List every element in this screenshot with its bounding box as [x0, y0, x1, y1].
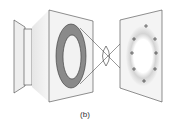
image-plane	[120, 10, 162, 102]
lens	[103, 46, 110, 66]
annular-aperture-plate	[49, 10, 93, 102]
source-housing	[14, 10, 49, 102]
image-ring-glow	[126, 26, 160, 86]
figure-caption: (b)	[0, 110, 170, 119]
optics-diagram	[0, 0, 170, 127]
